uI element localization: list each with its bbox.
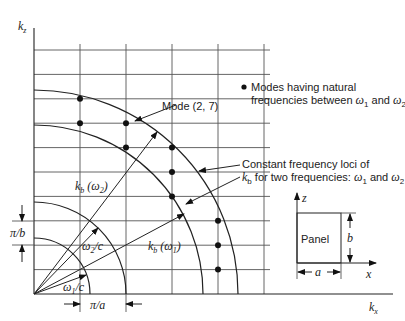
omega1-c-label: ω1/c xyxy=(63,280,85,296)
panel-b-label: b xyxy=(347,231,353,245)
pi-over-a-label: π/a xyxy=(90,298,105,312)
mode-dot xyxy=(169,145,175,151)
kb-omega1-label: kb (ω1) xyxy=(148,239,181,255)
panel-z-label: z xyxy=(301,191,307,205)
pi-over-b-label: π/b xyxy=(10,226,25,240)
arc-kb-omega1-locus xyxy=(34,125,203,294)
panel-inset: z x Panel b a xyxy=(297,191,376,281)
mode-dot xyxy=(123,145,129,151)
mode-dot xyxy=(77,120,83,126)
panel-title: Panel xyxy=(301,233,329,245)
mode-dot xyxy=(215,218,221,224)
mode-dot xyxy=(169,169,175,175)
kb-omega1-vector xyxy=(34,214,184,294)
loci-pointer-outer xyxy=(199,165,240,171)
wavenumber-diagram: π/b π/a kz kx kb (ω2) kb (ω1) ω2/c ω1/c … xyxy=(0,0,405,321)
mode-dot xyxy=(123,120,129,126)
mode-27-label: Mode (2, 7) xyxy=(162,100,218,112)
legend-line-1: Modes having natural xyxy=(251,81,356,93)
panel-a-label: a xyxy=(315,265,321,279)
kb-omega2-label: kb (ω2) xyxy=(75,179,108,195)
kz-axis-label: kz xyxy=(18,19,27,35)
diagram-svg: π/b π/a kz kx kb (ω2) kb (ω1) ω2/c ω1/c … xyxy=(0,0,405,321)
panel-x-label: x xyxy=(365,267,372,281)
mode-dot xyxy=(169,193,175,199)
mode-dot xyxy=(215,242,221,248)
legend-line-2: frequencies between ω1 and ω2 xyxy=(251,93,405,109)
legend-dot-icon xyxy=(241,84,246,89)
loci-line-2: kb for two frequencies: ω1 and ω2 xyxy=(242,170,405,186)
loci-pointer-inner xyxy=(186,177,240,204)
kx-axis-label: kx xyxy=(369,300,378,316)
mode-dot xyxy=(215,267,221,273)
omega2-c-label: ω2/c xyxy=(82,239,104,255)
mode-dot xyxy=(77,96,83,102)
loci-line-1: Constant frequency loci of xyxy=(242,158,370,170)
